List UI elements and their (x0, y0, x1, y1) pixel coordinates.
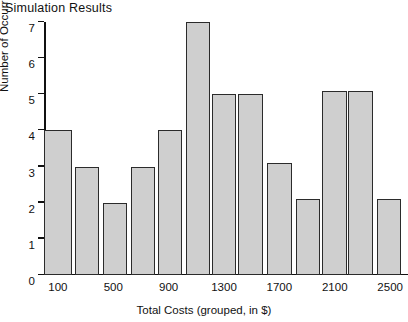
histogram-bar (44, 130, 72, 275)
histogram-bar (267, 163, 292, 275)
x-axis-tick-label: 1700 (267, 281, 293, 293)
histogram-bar (377, 199, 401, 275)
histogram-bar (75, 167, 99, 275)
histogram-bar (103, 203, 127, 275)
histogram-bar (238, 94, 263, 275)
histogram-bar (158, 130, 182, 275)
histogram-chart: Simulation Results Number of Occurrences… (0, 0, 408, 322)
x-axis-tick-label: 100 (48, 281, 67, 293)
y-axis-tick (38, 57, 44, 58)
x-axis-tick-label: 2100 (322, 281, 348, 293)
x-axis-tick-label: 1300 (211, 281, 237, 293)
x-axis-tick-label: 2500 (377, 281, 403, 293)
x-axis-tick-label: 500 (104, 281, 123, 293)
histogram-bar (322, 91, 347, 275)
y-axis-tick (38, 21, 44, 22)
histogram-bar (131, 167, 155, 275)
histogram-bar (186, 22, 210, 275)
histogram-bar (348, 91, 373, 275)
y-axis-tick (38, 93, 44, 94)
histogram-bar (212, 94, 237, 275)
x-axis-title: Total Costs (grouped, in $) (0, 304, 408, 316)
histogram-bar (296, 199, 320, 275)
plot-area: 01234567 1005009001300170021002500 (44, 22, 404, 275)
x-axis-tick-label: 900 (159, 281, 178, 293)
chart-title: Simulation Results (5, 1, 112, 15)
y-axis-title: Number of Occurrences (0, 0, 10, 92)
